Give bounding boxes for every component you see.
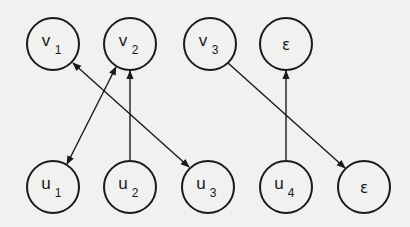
- node-epsilon-top: ε: [260, 18, 312, 70]
- svg-text:v: v: [199, 31, 208, 50]
- svg-text:v: v: [42, 31, 51, 50]
- svg-text:u: u: [118, 174, 127, 193]
- edge-v1-u3: [73, 63, 189, 167]
- svg-text:3: 3: [212, 43, 219, 57]
- node-u2: u 2: [104, 161, 156, 213]
- svg-text:2: 2: [132, 43, 139, 57]
- svg-text:4: 4: [288, 186, 295, 200]
- node-u4: u 4: [260, 161, 312, 213]
- node-epsilon-bottom: ε: [338, 161, 390, 213]
- svg-text:u: u: [274, 174, 283, 193]
- svg-text:1: 1: [55, 186, 62, 200]
- edge-u1-v2: [67, 67, 116, 164]
- node-u3: u 3: [182, 161, 234, 213]
- svg-text:ε: ε: [360, 179, 368, 197]
- node-v2: v 2: [104, 18, 156, 70]
- node-v1: v 1: [27, 18, 79, 70]
- svg-text:u: u: [41, 174, 50, 193]
- node-u1: u 1: [27, 161, 79, 213]
- svg-text:2: 2: [132, 186, 139, 200]
- svg-text:u: u: [196, 174, 205, 193]
- svg-text:v: v: [119, 31, 128, 50]
- node-v3: v 3: [184, 18, 236, 70]
- svg-text:ε: ε: [282, 36, 290, 54]
- svg-text:3: 3: [210, 186, 217, 200]
- svg-text:1: 1: [55, 43, 62, 57]
- diagram-canvas: v 1 v 2 v 3 ε u 1 u 2 u 3 u 4 ε: [0, 0, 410, 227]
